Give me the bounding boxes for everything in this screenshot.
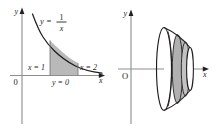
y-axis-arrowhead-icon xyxy=(20,8,25,15)
figure-container: y x 0 y = 1 x x = 1 x = 2 y = 0 xyxy=(0,0,217,129)
curve-equation-label: y = 1 x xyxy=(39,13,67,33)
label-y-equals-0: y = 0 xyxy=(51,78,69,87)
curve-equation-lhs: y = xyxy=(39,16,52,26)
x-axis-label: x xyxy=(98,76,103,85)
x-axis-label: x xyxy=(202,70,207,79)
y-axis-label: y xyxy=(14,7,19,16)
curve-equation-denominator: x xyxy=(59,24,64,33)
shaded-region-under-curve xyxy=(50,40,78,75)
y-axis-arrowhead-icon xyxy=(129,10,134,17)
origin-label: 0 xyxy=(14,77,18,87)
left-panel-region-under-curve: y x 0 y = 1 x x = 1 x = 2 y = 0 xyxy=(0,0,110,129)
curve-equation-numerator: 1 xyxy=(60,13,64,22)
right-panel-solid-of-revolution: y x O xyxy=(110,0,217,129)
origin-label: O xyxy=(122,71,128,81)
label-x-equals-2: x = 2 xyxy=(79,63,97,72)
left-panel-svg: y x 0 y = 1 x x = 1 x = 2 y = 0 xyxy=(0,0,110,129)
right-panel-svg: y x O xyxy=(110,0,217,129)
solid-right-end-ellipse xyxy=(187,48,194,91)
y-axis-label: y xyxy=(123,9,128,18)
label-x-equals-1: x = 1 xyxy=(27,63,45,72)
